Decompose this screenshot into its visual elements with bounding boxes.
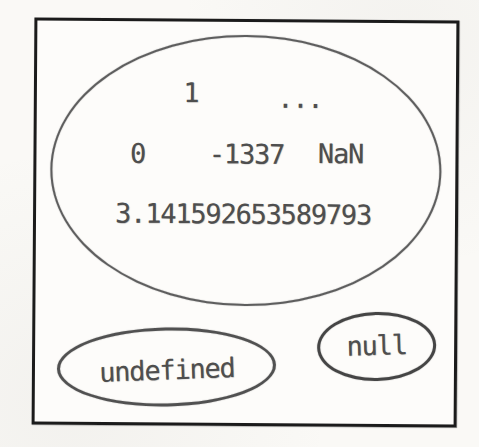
number-set-ellipse — [49, 34, 442, 308]
value-undefined: undefined — [98, 352, 235, 388]
value-zero: 0 — [130, 138, 145, 169]
value-one: 1 — [183, 77, 198, 108]
value-negative-1337: -1337 — [209, 138, 284, 170]
figure-frame: 1 ... 0 -1337 NaN 3.141592653589793 unde… — [32, 18, 460, 428]
value-ellipsis: ... — [277, 83, 322, 114]
null-ellipse: null — [316, 310, 437, 382]
value-pi: 3.141592653589793 — [115, 198, 371, 231]
undefined-ellipse: undefined — [56, 325, 276, 408]
value-null: null — [346, 329, 407, 362]
value-nan: NaN — [318, 138, 363, 169]
